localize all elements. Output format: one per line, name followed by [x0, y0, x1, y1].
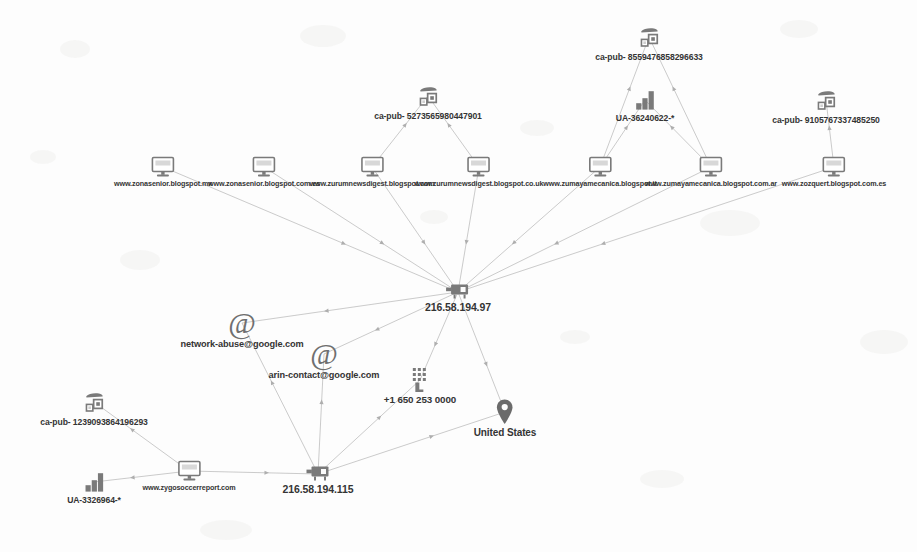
server-icon: [443, 280, 473, 300]
graph-edge-arrow: [374, 327, 380, 333]
graph-node-adsense[interactable]: ca-pub- 5273565980447901: [374, 84, 482, 121]
graph-edge-arrow: [341, 241, 347, 247]
graph-node-website[interactable]: www.zumayamecanica.blogspot.it: [543, 156, 656, 188]
graph-canvas[interactable]: www.zonasenior.blogspot.mxwww.zonasenior…: [0, 0, 917, 552]
keypad-icon: [384, 367, 456, 393]
graph-node-label: ca-pub- 5273565980447901: [374, 111, 482, 121]
graph-node-analytics[interactable]: UA-36240622-*: [616, 88, 674, 123]
graph-node-label: www.zonasenior.blogspot.mx: [114, 179, 212, 188]
map-pin-icon: [474, 398, 537, 426]
at-icon: @: [181, 308, 304, 338]
graph-node-adsense[interactable]: ca-pub- 9105767337485250: [772, 88, 880, 125]
graph-node-adsense[interactable]: ca-pub- 8559476858296633: [595, 25, 703, 62]
graph-edge-arrow: [600, 241, 606, 246]
graph-edge-arrow: [129, 427, 135, 433]
adsense-icon: [595, 25, 703, 51]
graph-edge-arrow: [446, 122, 452, 128]
adsense-icon: [636, 25, 662, 51]
graph-edge-arrow: [269, 379, 275, 385]
map-pin-icon: [495, 398, 515, 426]
server-icon: [425, 280, 491, 300]
adsense-icon: [772, 88, 880, 114]
bar-chart-icon: [82, 470, 106, 494]
graph-edges-layer: [0, 0, 917, 552]
monitor-icon: [645, 156, 777, 178]
adsense-icon: [415, 84, 441, 110]
monitor-icon: [587, 156, 613, 178]
graph-edge-arrow: [130, 475, 135, 480]
graph-edge-arrow: [553, 241, 559, 247]
monitor-icon: [359, 156, 385, 178]
graph-node-website[interactable]: www.zonasenior.blogspot.com.es: [208, 156, 320, 188]
graph-node-website[interactable]: www.zygosoccerreport.com: [142, 460, 235, 492]
server-icon: [303, 462, 333, 482]
monitor-icon: [176, 460, 202, 482]
adsense-icon: [40, 390, 148, 416]
at-icon: @: [269, 339, 380, 369]
graph-node-label: www.zonasenior.blogspot.com.es: [208, 179, 320, 188]
keypad-icon: [409, 367, 431, 393]
bar-chart-icon: [616, 88, 674, 112]
monitor-icon: [150, 156, 176, 178]
graph-node-label: 216.58.194.97: [425, 301, 491, 313]
adsense-icon: [813, 88, 839, 114]
graph-edge-arrow: [433, 342, 439, 348]
graph-node-phone[interactable]: +1 650 253 0000: [384, 367, 456, 405]
graph-node-label: www.zozquert.blogspot.com.es: [782, 179, 886, 188]
monitor-icon: [543, 156, 656, 178]
graph-edge-arrow: [484, 361, 490, 367]
graph-node-label: United States: [474, 427, 537, 438]
graph-node-website[interactable]: www.zurumnewsdigest.blogspot.co.uk: [415, 156, 544, 188]
graph-node-analytics[interactable]: UA-3326964-*: [67, 470, 121, 505]
graph-node-email[interactable]: @arin-contact@google.com: [269, 339, 380, 380]
graph-node-label: UA-3326964-*: [67, 495, 121, 505]
graph-node-label: ca-pub- 8559476858296633: [595, 52, 703, 62]
graph-edge-arrow: [379, 240, 385, 246]
graph-node-label: www.zumayamecanica.blogspot.com.ar: [645, 179, 777, 188]
graph-node-country[interactable]: United States: [474, 398, 537, 438]
graph-node-label: +1 650 253 0000: [384, 394, 456, 405]
monitor-icon: [208, 156, 320, 178]
graph-node-website[interactable]: www.zozquert.blogspot.com.es: [782, 156, 886, 188]
graph-node-label: www.zumayamecanica.blogspot.it: [543, 179, 656, 188]
monitor-icon: [142, 460, 235, 482]
graph-node-website[interactable]: www.zonasenior.blogspot.mx: [114, 156, 212, 188]
graph-node-adsense[interactable]: ca-pub- 1239093864196293: [40, 390, 148, 427]
graph-node-label: ca-pub- 1239093864196293: [40, 417, 148, 427]
graph-node-label: www.zygosoccerreport.com: [142, 483, 235, 492]
graph-node-label: www.zurumnewsdigest.blogspot.co.uk: [415, 179, 544, 188]
monitor-icon: [466, 156, 492, 178]
graph-edge-arrow: [827, 125, 832, 130]
graph-edge-arrow: [624, 124, 630, 130]
graph-node-label: UA-36240622-*: [616, 113, 674, 123]
graph-node-ip[interactable]: 216.58.194.97: [425, 280, 491, 313]
monitor-icon: [251, 156, 277, 178]
monitor-icon: [782, 156, 886, 178]
graph-edge-arrow: [264, 471, 269, 475]
adsense-icon: [81, 390, 107, 416]
server-icon: [282, 462, 353, 482]
graph-node-website[interactable]: www.zumayamecanica.blogspot.com.ar: [645, 156, 777, 188]
graph-node-label: arin-contact@google.com: [269, 370, 380, 380]
at-icon: @: [181, 308, 304, 338]
graph-node-label: ca-pub- 9105767337485250: [772, 115, 880, 125]
graph-edge-arrow: [319, 399, 323, 404]
monitor-icon: [415, 156, 544, 178]
monitor-icon: [114, 156, 212, 178]
at-icon: @: [269, 339, 380, 369]
graph-node-label: 216.58.194.115: [282, 483, 353, 495]
monitor-icon: [698, 156, 724, 178]
bar-chart-icon: [633, 88, 657, 112]
graph-node-ip[interactable]: 216.58.194.115: [282, 462, 353, 495]
monitor-icon: [821, 156, 847, 178]
adsense-icon: [374, 84, 482, 110]
bar-chart-icon: [67, 470, 121, 494]
graph-edge-arrow: [429, 434, 435, 439]
graph-edge-arrow: [421, 240, 427, 246]
